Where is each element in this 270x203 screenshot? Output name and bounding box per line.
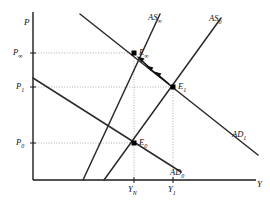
tick-label-p0: P0 — [16, 138, 24, 149]
tick-label-yn: YN — [128, 185, 137, 196]
curve-label-ad-0-sub: 0 — [181, 173, 184, 179]
curve-label-as-long-run-sub: ∞ — [157, 18, 161, 24]
tick-label-p-infinity: P∞ — [13, 48, 22, 59]
equilibrium-points — [132, 51, 176, 146]
guide-lines — [33, 53, 173, 180]
tick-label-yn-sub: N — [133, 190, 137, 196]
point-label-e1-sub: 1 — [183, 87, 186, 93]
tick-label-y1: Y1 — [168, 185, 176, 196]
point-e-infinity — [132, 51, 137, 56]
curve-ad-0 — [33, 78, 181, 172]
curve-label-ad-1-sub: 1 — [243, 135, 246, 141]
curve-label-ad-1: AD1 — [232, 130, 246, 141]
tick-label-p1-sub: 1 — [21, 87, 24, 93]
curve-label-ad-1-base: AD — [232, 129, 243, 139]
curve-label-as-short-run-0: AS0 — [209, 14, 221, 25]
point-e1 — [171, 85, 176, 90]
curve-as-short-run-0 — [104, 18, 221, 180]
tick-label-p1: P1 — [16, 82, 24, 93]
point-label-e1: E1 — [178, 82, 186, 93]
adjustment-path-arrows — [137, 56, 170, 84]
tick-label-p-infinity-sub: ∞ — [18, 53, 22, 59]
curve-label-as-short-run-0-sub: 0 — [218, 19, 221, 25]
axis-ticks — [30, 53, 173, 183]
y-axis-label: P — [24, 18, 30, 27]
curve-label-as-long-run: AS∞ — [148, 13, 162, 24]
diagram-canvas — [0, 0, 270, 203]
point-label-e-infinity-sub: ∞ — [144, 53, 148, 59]
point-label-e0: E0 — [139, 138, 147, 149]
axes — [33, 12, 256, 180]
tick-label-y1-sub: 1 — [173, 190, 176, 196]
point-label-e0-sub: 0 — [144, 143, 147, 149]
curve-label-ad-0-base: AD — [170, 167, 181, 177]
x-axis-label: Y — [257, 180, 262, 189]
point-e0 — [132, 141, 137, 146]
curves — [33, 14, 258, 180]
point-label-e-infinity: E∞ — [139, 48, 148, 59]
tick-label-p0-sub: 0 — [21, 143, 24, 149]
curve-label-ad-0: AD0 — [170, 168, 184, 179]
ad-as-diagram: P Y P∞ P1 P0 YN Y1 AS∞ AS0 AD1 AD0 E∞ E1… — [0, 0, 270, 203]
